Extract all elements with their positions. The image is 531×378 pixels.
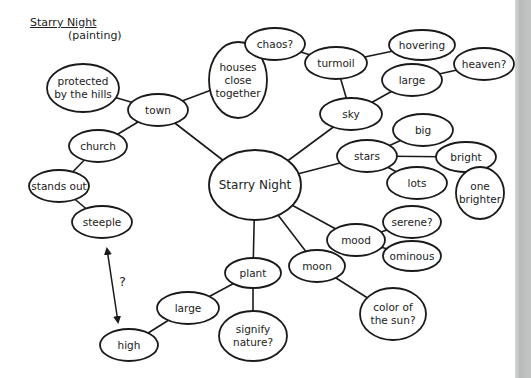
node-chaos: chaos? xyxy=(245,28,305,60)
node-steeple: steeple xyxy=(72,206,132,238)
node-label: hovering xyxy=(399,39,445,51)
node-label: serene? xyxy=(391,216,432,228)
annotation-layer: ? xyxy=(107,249,126,322)
node-label: bright xyxy=(450,151,481,163)
node-plant-large: large xyxy=(157,292,219,324)
node-label: big xyxy=(415,124,431,136)
node-hovering: hovering xyxy=(389,30,455,60)
node-signify: signifynature? xyxy=(219,311,287,361)
node-stars: stars xyxy=(337,140,397,172)
node-label: the sun? xyxy=(371,314,416,326)
node-label: moon xyxy=(302,260,332,272)
node-label: large xyxy=(399,74,426,86)
node-label: stands out xyxy=(31,180,86,192)
node-town: town xyxy=(128,94,188,126)
node-label: plant xyxy=(240,267,267,279)
node-color-sun: color ofthe sun? xyxy=(360,288,426,340)
node-label: mood xyxy=(341,234,371,246)
node-label: by the hills xyxy=(54,88,112,100)
node-label: one xyxy=(470,180,490,192)
node-moon: moon xyxy=(289,250,345,282)
node-serene: serene? xyxy=(383,206,441,238)
node-label: brighter xyxy=(459,193,502,205)
node-label: houses xyxy=(219,61,256,73)
node-label: lots xyxy=(408,177,427,189)
node-label: sky xyxy=(342,108,359,120)
node-label: ominous xyxy=(390,250,435,262)
double-arrow xyxy=(107,249,118,322)
node-big: big xyxy=(393,114,453,146)
node-turmoil: turmoil xyxy=(305,47,367,79)
node-lots: lots xyxy=(387,167,447,199)
node-plant: plant xyxy=(225,258,281,288)
node-label: stars xyxy=(354,150,380,162)
node-label: town xyxy=(145,104,171,116)
node-church: church xyxy=(69,130,127,162)
node-label: church xyxy=(80,140,116,152)
node-heaven: heaven? xyxy=(454,48,514,80)
node-mood: mood xyxy=(327,224,385,256)
node-label: chaos? xyxy=(257,38,293,50)
nodes-layer: Starry Nighttownprotectedby the hillshou… xyxy=(29,28,514,361)
node-label: together xyxy=(215,87,261,99)
node-protected: protectedby the hills xyxy=(47,64,119,112)
node-stands-out: stands out xyxy=(29,170,89,202)
node-label: turmoil xyxy=(317,57,354,69)
node-sky-large: large xyxy=(382,64,442,96)
node-label: steeple xyxy=(83,216,122,228)
node-high: high xyxy=(100,329,158,361)
node-label: nature? xyxy=(233,336,273,348)
node-label: color of xyxy=(373,301,413,313)
node-label: protected xyxy=(58,75,109,87)
node-label: signify xyxy=(236,323,270,335)
node-label: large xyxy=(175,302,202,314)
question-mark-label: ? xyxy=(119,274,126,289)
mind-map-canvas: ? Starry Nighttownprotectedby the hillsh… xyxy=(0,0,531,378)
node-label: Starry Night xyxy=(219,178,292,192)
node-label: heaven? xyxy=(462,58,506,70)
node-label: high xyxy=(118,339,141,351)
node-ominous: ominous xyxy=(383,241,441,271)
node-label: close xyxy=(224,74,251,86)
node-sky: sky xyxy=(320,98,382,130)
node-center: Starry Night xyxy=(209,150,301,220)
node-one-brighter: onebrighter xyxy=(456,167,504,219)
